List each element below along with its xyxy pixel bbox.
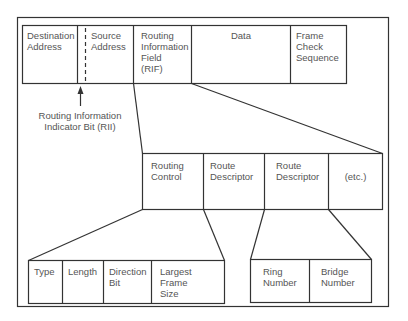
label-rif: Routing Information Field (RIF) [141, 30, 189, 74]
label-rii: Routing Information Indicator Bit (RII) [20, 110, 140, 132]
label-data: Data [192, 30, 290, 41]
rd-expansion-right [329, 210, 372, 260]
label-direction-bit: Direction Bit [109, 266, 147, 288]
label-type: Type [34, 266, 55, 277]
label-fcs: Frame Check Sequence [296, 30, 339, 63]
label-route-descriptor-2: Route Descriptor [276, 160, 319, 182]
label-ring-number: Ring Number [263, 266, 297, 288]
arrow-up-icon [78, 86, 84, 94]
label-largest-frame-size: Largest Frame Size [160, 266, 192, 299]
rc-expansion-left [29, 210, 143, 261]
label-bridge-number: Bridge Number [321, 266, 355, 288]
label-length: Length [68, 266, 97, 277]
rd-expansion-left [251, 210, 265, 260]
label-destination-address: Destination Address [27, 30, 75, 52]
rif-expansion-right [192, 84, 383, 154]
label-etc: (etc.) [329, 171, 382, 182]
label-route-descriptor-1: Route Descriptor [210, 160, 253, 182]
label-source-address: Source Address [91, 30, 126, 52]
label-routing-control: Routing Control [151, 160, 184, 182]
rc-expansion-right [204, 210, 225, 261]
